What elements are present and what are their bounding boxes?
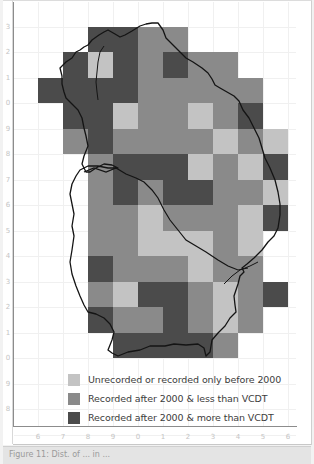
legend-swatch-mid-grey bbox=[68, 393, 80, 405]
figure-caption-bar: Figure 11: Dist. of ... in ... bbox=[3, 446, 311, 464]
legend-swatch-light-grey bbox=[68, 374, 80, 386]
legend-label: Recorded after 2000 & more than VCDT bbox=[88, 412, 274, 423]
legend-label: Unrecorded or recorded only before 2000 bbox=[88, 374, 281, 385]
legend-item-unrecorded: Unrecorded or recorded only before 2000 bbox=[68, 370, 281, 389]
legend-item-recorded-more: Recorded after 2000 & more than VCDT bbox=[68, 408, 281, 427]
legend-item-recorded-less: Recorded after 2000 & less than VCDT bbox=[68, 389, 281, 408]
legend-label: Recorded after 2000 & less than VCDT bbox=[88, 393, 268, 404]
figure-caption: Figure 11: Dist. of ... in ... bbox=[9, 450, 110, 459]
legend-swatch-dark-grey bbox=[68, 412, 80, 424]
map-legend: Unrecorded or recorded only before 2000 … bbox=[68, 370, 281, 427]
